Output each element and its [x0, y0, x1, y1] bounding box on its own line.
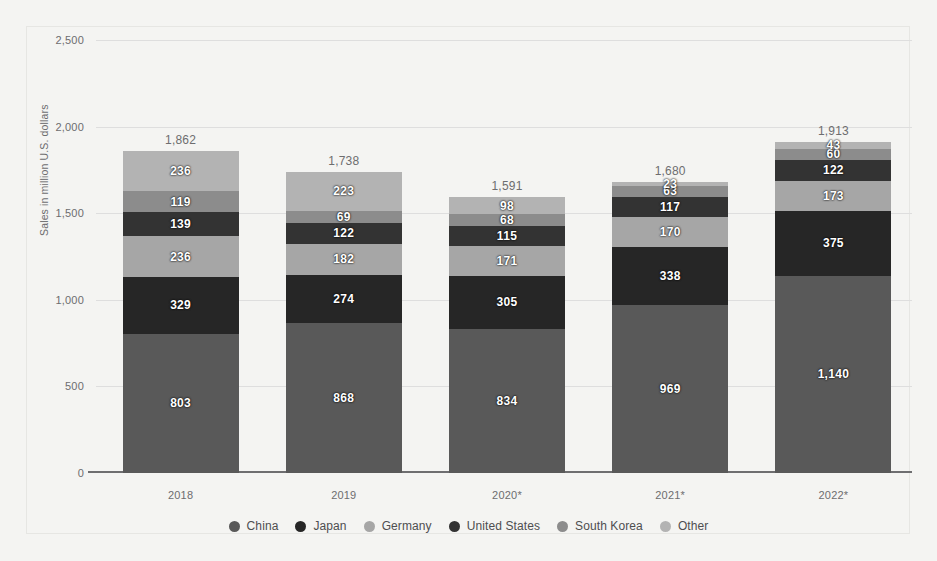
- bar-total-label: 1,738: [286, 154, 402, 168]
- bar-segment-value: 338: [612, 270, 728, 282]
- legend-swatch-icon: [557, 521, 568, 532]
- legend-swatch-icon: [295, 521, 306, 532]
- bar-segment-value: 171: [449, 255, 565, 267]
- x-axis-tick-label: 2020*: [449, 489, 565, 501]
- bar-segment-germany[interactable]: 170: [612, 217, 728, 246]
- bar-segment-value: 329: [123, 299, 239, 311]
- bar-segment-china[interactable]: 803: [123, 334, 239, 473]
- bar-total-label: 1,913: [775, 124, 891, 138]
- bar-segment-germany[interactable]: 236: [123, 236, 239, 277]
- y-axis-tick-label: 500: [65, 380, 84, 392]
- bar-segment-value: 117: [612, 201, 728, 213]
- legend-item-china[interactable]: China: [229, 519, 279, 533]
- bar-segment-other[interactable]: 43: [775, 142, 891, 149]
- legend-item-south-korea[interactable]: South Korea: [557, 519, 643, 533]
- bar-segment-united-states[interactable]: 117: [612, 197, 728, 217]
- bar-segment-value: 119: [123, 196, 239, 208]
- bar-segment-china[interactable]: 868: [286, 323, 402, 473]
- bar-segment-united-states[interactable]: 139: [123, 212, 239, 236]
- x-axis-tick-label: 2019: [286, 489, 402, 501]
- bar-segment-japan[interactable]: 329: [123, 277, 239, 334]
- bar-segment-germany[interactable]: 182: [286, 244, 402, 276]
- bar-segment-value: 1,140: [775, 368, 891, 380]
- legend-item-label: Germany: [382, 519, 432, 533]
- plot-area: 05001,0001,5002,0002,500 803329236139119…: [96, 40, 912, 473]
- bar-segment-value: 115: [449, 230, 565, 242]
- bar-segment-south-korea[interactable]: 68: [449, 214, 565, 226]
- bar-segment-value: 803: [123, 397, 239, 409]
- legend-item-label: China: [247, 519, 279, 533]
- bar-segment-value: 173: [775, 190, 891, 202]
- bar-segment-value: 274: [286, 293, 402, 305]
- bar-segment-other[interactable]: 23: [612, 182, 728, 186]
- bar-segment-value: 375: [775, 237, 891, 249]
- bar-segment-value: 969: [612, 383, 728, 395]
- bar-segment-value: 69: [286, 211, 402, 223]
- bar-segment-value: 98: [449, 200, 565, 212]
- legend-item-other[interactable]: Other: [660, 519, 709, 533]
- bar-series-group: 8033292361391192361,86220188682741821226…: [96, 40, 912, 473]
- bar-segment-other[interactable]: 236: [123, 151, 239, 192]
- chart-canvas: Sales in million U.S. dollars 05001,0001…: [0, 0, 937, 561]
- bar-segment-south-korea[interactable]: 119: [123, 191, 239, 212]
- legend-swatch-icon: [660, 521, 671, 532]
- bar-segment-china[interactable]: 969: [612, 305, 728, 473]
- bar-column[interactable]: 96933817011763231,6802021*: [612, 182, 728, 473]
- bar-segment-japan[interactable]: 305: [449, 276, 565, 329]
- y-axis-tick-label: 1,000: [55, 294, 84, 306]
- y-axis-tick-label: 2,000: [55, 121, 84, 133]
- bar-segment-value: 122: [775, 164, 891, 176]
- bar-segment-germany[interactable]: 171: [449, 246, 565, 276]
- bar-segment-value: 139: [123, 218, 239, 230]
- bar-segment-united-states[interactable]: 115: [449, 226, 565, 246]
- bar-segment-japan[interactable]: 375: [775, 211, 891, 276]
- legend-swatch-icon: [449, 521, 460, 532]
- legend-item-label: Other: [678, 519, 709, 533]
- bar-segment-other[interactable]: 223: [286, 172, 402, 211]
- bar-segment-value: 236: [123, 251, 239, 263]
- legend-item-united-states[interactable]: United States: [449, 519, 540, 533]
- bar-column[interactable]: 83430517111568981,5912020*: [449, 197, 565, 473]
- bar-segment-value: 236: [123, 165, 239, 177]
- bar-segment-germany[interactable]: 173: [775, 181, 891, 211]
- legend-item-label: South Korea: [575, 519, 643, 533]
- y-axis-tick-label: 2,500: [55, 34, 84, 46]
- legend-swatch-icon: [229, 521, 240, 532]
- x-axis-tick-label: 2021*: [612, 489, 728, 501]
- bar-segment-china[interactable]: 834: [449, 329, 565, 473]
- bar-segment-united-states[interactable]: 122: [775, 160, 891, 181]
- y-axis-title: Sales in million U.S. dollars: [38, 104, 50, 236]
- legend-item-japan[interactable]: Japan: [295, 519, 346, 533]
- bar-total-label: 1,680: [612, 164, 728, 178]
- bar-column[interactable]: 8033292361391192361,8622018: [123, 151, 239, 473]
- y-axis-tick-label: 1,500: [55, 207, 84, 219]
- x-axis-tick-label: 2018: [123, 489, 239, 501]
- legend-swatch-icon: [364, 521, 375, 532]
- bar-column[interactable]: 868274182122692231,7382019: [286, 172, 402, 473]
- legend-item-label: Japan: [313, 519, 346, 533]
- bar-segment-value: 834: [449, 395, 565, 407]
- bar-segment-japan[interactable]: 274: [286, 275, 402, 322]
- bar-column[interactable]: 1,14037517312260431,9132022*: [775, 142, 891, 473]
- x-axis-tick-label: 2022*: [775, 489, 891, 501]
- legend-item-germany[interactable]: Germany: [364, 519, 432, 533]
- y-axis-tick-label: 0: [78, 467, 84, 479]
- legend-item-label: United States: [467, 519, 540, 533]
- chart-legend: ChinaJapanGermanyUnited StatesSouth Kore…: [0, 519, 937, 533]
- bar-segment-value: 182: [286, 253, 402, 265]
- bar-segment-value: 170: [612, 226, 728, 238]
- bar-segment-south-korea[interactable]: 69: [286, 211, 402, 223]
- bar-segment-value: 23: [612, 178, 728, 190]
- bar-total-label: 1,591: [449, 179, 565, 193]
- bar-segment-china[interactable]: 1,140: [775, 276, 891, 473]
- bar-segment-value: 868: [286, 392, 402, 404]
- bar-segment-united-states[interactable]: 122: [286, 223, 402, 244]
- bar-segment-other[interactable]: 98: [449, 197, 565, 214]
- bar-segment-value: 68: [449, 214, 565, 226]
- bar-total-label: 1,862: [123, 133, 239, 147]
- bar-segment-value: 122: [286, 227, 402, 239]
- bar-segment-value: 305: [449, 296, 565, 308]
- bar-segment-japan[interactable]: 338: [612, 247, 728, 306]
- bar-segment-value: 223: [286, 185, 402, 197]
- bar-segment-value: 43: [775, 139, 891, 151]
